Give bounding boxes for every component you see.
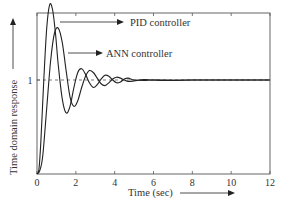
x-axis-label: Time (sec) <box>128 187 173 199</box>
pid-annotation-label: PID controller <box>130 17 191 28</box>
ann-annotation-arrowhead-icon <box>96 50 103 56</box>
x-tick-label: 10 <box>226 177 236 188</box>
x-tick-label: 0 <box>35 177 40 188</box>
pid-annotation-arrowhead-icon <box>117 19 124 25</box>
pid-controller-line <box>37 4 270 174</box>
step-response-chart: 024681012 1 PID controller ANN controlle… <box>0 0 290 209</box>
y-tick-label-1: 1 <box>28 75 33 86</box>
plot-frame <box>37 13 270 174</box>
y-axis-arrowhead-icon <box>10 18 16 25</box>
x-axis-ticks <box>37 13 270 174</box>
x-tick-label: 2 <box>73 177 78 188</box>
ann-annotation-label: ANN controller <box>106 48 173 59</box>
y-axis-label: Time domain response <box>8 79 19 175</box>
y-axis-label-group: Time domain response <box>8 18 19 175</box>
x-axis-arrowhead-icon <box>228 190 235 196</box>
x-tick-label: 12 <box>265 177 275 188</box>
x-tick-label: 4 <box>112 177 117 188</box>
x-tick-label: 8 <box>190 177 195 188</box>
